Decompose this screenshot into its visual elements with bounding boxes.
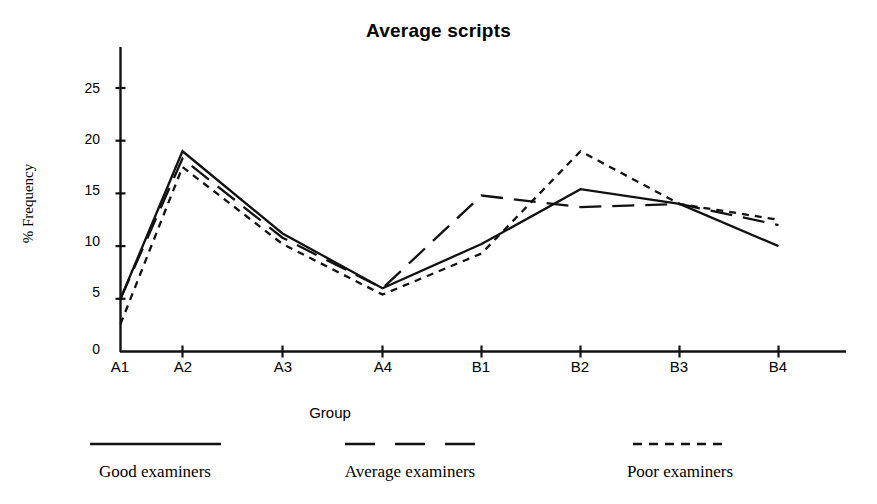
plot-area bbox=[0, 0, 877, 504]
series-line-solid bbox=[121, 151, 779, 299]
data-series-group bbox=[121, 151, 779, 324]
legend-label-good: Good examiners bbox=[45, 462, 265, 482]
series-line-long-dash bbox=[121, 159, 779, 299]
legend-label-average: Average examiners bbox=[300, 462, 520, 482]
series-line-short-dash bbox=[121, 151, 779, 324]
axes bbox=[116, 47, 847, 358]
legend-item-poor: Poor examiners bbox=[570, 440, 790, 482]
legend-swatch-short-dash-icon bbox=[570, 440, 790, 454]
chart-container: Average scripts % Frequency Group 25 20 … bbox=[0, 0, 877, 504]
legend-swatch-long-dash-icon bbox=[300, 440, 520, 454]
legend-swatch-solid-icon bbox=[45, 440, 265, 454]
legend-item-good: Good examiners bbox=[45, 440, 265, 482]
legend-label-poor: Poor examiners bbox=[570, 462, 790, 482]
legend-item-average: Average examiners bbox=[300, 440, 520, 482]
